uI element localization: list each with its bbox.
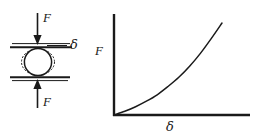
approach-label: δ [70,37,78,52]
undeformed-sphere-outline [24,48,51,75]
figure-canvas: F δ F [0,0,259,137]
force-deflection-chart: F δ [94,14,250,134]
bottom-force-arrow [33,79,41,108]
force-deflection-curve [114,23,222,115]
bottom-force-label: F [42,94,52,109]
compressed-sphere-schematic: F δ F [10,10,78,109]
top-force-arrow [33,13,41,45]
chart-x-axis-label: δ [166,119,174,134]
chart-y-axis-label: F [94,43,104,58]
lower-plate [10,77,70,80]
top-force-label: F [42,10,52,25]
figure-root: F δ F [0,0,259,137]
